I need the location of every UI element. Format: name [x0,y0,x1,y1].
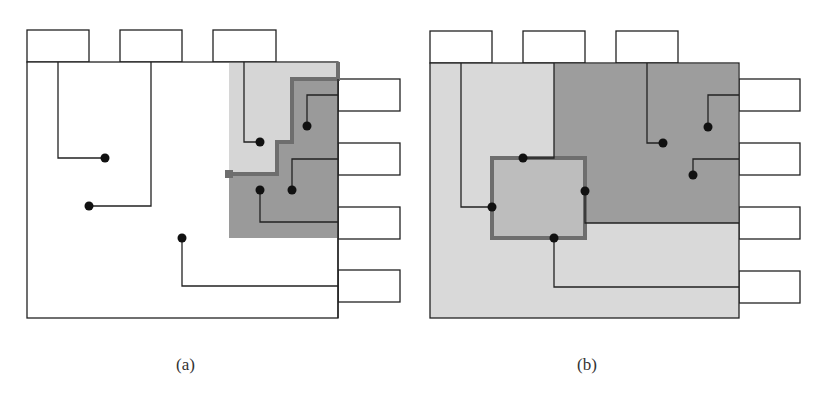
panel-a [27,30,400,318]
boundary-endcap [225,170,233,178]
node [689,171,698,180]
pin-right-1 [739,79,800,111]
pin-top-2 [523,31,585,63]
pin-right-3 [338,207,400,239]
pin-right-2 [739,143,800,175]
pin-top-1 [430,31,492,63]
panel-a-top-pins [27,30,276,62]
node [288,186,297,195]
node [550,234,559,243]
pin-right-4 [338,270,400,302]
node [101,154,110,163]
panel-b-top-pins [430,31,678,63]
caption-b: (b) [577,355,597,375]
panel-b-highlighted-block [492,158,585,238]
node [659,139,668,148]
pin-right-2 [338,143,400,175]
pin-top-2 [120,30,182,62]
pin-right-1 [338,79,400,111]
node [303,122,312,131]
panel-b-right-pins [739,79,800,303]
pin-top-1 [27,30,89,62]
panel-a-right-pins [338,79,400,302]
node [519,154,528,163]
node [704,123,713,132]
pin-right-3 [739,207,800,239]
node [178,234,187,243]
node [85,202,94,211]
node [581,187,590,196]
panel-b [430,31,800,318]
node [256,186,265,195]
pin-right-4 [739,271,800,303]
figure-canvas [0,0,825,403]
node [488,203,497,212]
caption-a: (a) [176,355,195,375]
pin-top-3 [213,30,276,62]
node [256,138,265,147]
pin-top-3 [616,31,678,63]
